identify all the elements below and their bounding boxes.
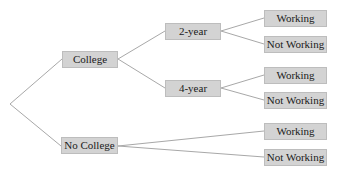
leaf-no-college-working: Working <box>264 123 327 140</box>
edge-root-college <box>10 59 62 104</box>
node-college: College <box>62 51 118 68</box>
edge-root-no-college <box>10 104 61 146</box>
edge-2year-working <box>221 18 264 31</box>
edge-no-college-not-working <box>118 146 264 157</box>
leaf-4year-working: Working <box>264 67 327 84</box>
edge-4year-not-working <box>221 88 264 100</box>
leaf-2year-working: Working <box>264 10 327 27</box>
edge-no-college-working <box>118 131 264 146</box>
edge-2year-not-working <box>221 31 264 44</box>
edge-4year-working <box>221 75 264 88</box>
leaf-4year-not-working: Not Working <box>264 92 327 109</box>
node-2-year: 2-year <box>165 23 221 40</box>
leaf-no-college-not-working: Not Working <box>264 149 327 166</box>
edge-college-4year <box>118 59 165 88</box>
edge-college-2year <box>118 31 165 59</box>
node-no-college: No College <box>61 137 118 154</box>
leaf-2year-not-working: Not Working <box>264 36 327 53</box>
node-4-year: 4-year <box>165 80 221 97</box>
tree-diagram: College No College 2-year 4-year Working… <box>0 0 337 175</box>
